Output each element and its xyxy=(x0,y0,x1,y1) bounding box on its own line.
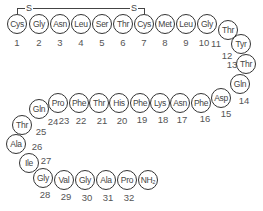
residue-14: Gln xyxy=(230,74,250,94)
residue-number: 14 xyxy=(239,95,250,106)
residue-9: Leu xyxy=(176,14,196,34)
residue-number: 22 xyxy=(76,115,87,126)
residue-number: 19 xyxy=(137,114,148,125)
residue-number: 9 xyxy=(183,37,188,48)
residue-26: Ala xyxy=(6,134,26,154)
residue-1: Cys xyxy=(7,14,27,34)
residue-2: Gly xyxy=(29,14,49,34)
residue-22: Phe xyxy=(69,93,89,113)
residue-number: 6 xyxy=(120,37,125,48)
residue-number: 15 xyxy=(221,108,232,119)
residue-17: Asn xyxy=(170,93,190,113)
residue-15: Asp xyxy=(211,88,231,108)
residue-number: 23 xyxy=(59,115,70,126)
residue-6: Thr xyxy=(113,14,133,34)
residue-13: Thr xyxy=(236,54,256,74)
residue-number: 24 xyxy=(48,116,59,127)
residue-7: Cys xyxy=(134,14,154,34)
residue-number: 16 xyxy=(200,113,211,124)
residue-25: Thr xyxy=(12,115,32,135)
residue-21: Thr xyxy=(89,93,109,113)
residue-number: 1 xyxy=(14,37,19,48)
residue-number: 3 xyxy=(57,37,62,48)
residue-number: 21 xyxy=(97,115,108,126)
residue-5: Ser xyxy=(92,14,112,34)
sulfur-label-right: S xyxy=(130,3,138,13)
residue-number: 26 xyxy=(32,141,43,152)
residue-number: 11 xyxy=(211,38,221,49)
residue-number: 4 xyxy=(78,37,83,48)
residue-number: 31 xyxy=(103,192,114,203)
residue-number: 32 xyxy=(124,192,135,203)
residue-32: Pro xyxy=(117,170,137,190)
residue-10: Gly xyxy=(197,14,217,34)
residue-number: 29 xyxy=(61,191,72,202)
residue-number: 7 xyxy=(141,37,146,48)
residue-number: 20 xyxy=(117,115,128,126)
residue-number: 25 xyxy=(36,126,47,137)
residue-31: Ala xyxy=(96,170,116,190)
residue-number: 5 xyxy=(99,37,104,48)
residue-3: Asn xyxy=(50,14,70,34)
residue-8: Met xyxy=(155,14,175,34)
disulfide-bridge-line xyxy=(17,8,145,9)
residue-23: Pro xyxy=(48,93,68,113)
residue-18: Lys xyxy=(150,93,170,113)
residue-4: Leu xyxy=(71,14,91,34)
residue-number: 13 xyxy=(227,59,238,70)
residue-number: 27 xyxy=(41,155,52,166)
residue-number: 2 xyxy=(36,37,41,48)
residue-number: 8 xyxy=(162,37,167,48)
sulfur-label-left: S xyxy=(25,3,33,13)
residue-number: 10 xyxy=(199,37,210,48)
residue-number: 17 xyxy=(177,114,188,125)
residue-28: Gly xyxy=(33,168,53,188)
residue-number: 30 xyxy=(82,192,93,203)
residue-number: 18 xyxy=(158,114,169,125)
residue-24: Gln xyxy=(29,99,49,119)
residue-number: 28 xyxy=(40,189,51,200)
residue-16: Phe xyxy=(191,93,211,113)
peptide-sequence-diagram: S S Cys1Gly2Asn3Leu4Ser5Thr6Cys7Met8Leu9… xyxy=(0,0,263,211)
residue-30: Gly xyxy=(75,170,95,190)
residue-29: Val xyxy=(54,170,74,190)
residue-20: His xyxy=(109,93,129,113)
residue-19: Phe xyxy=(130,93,150,113)
residue-nh2: NH₂ xyxy=(138,170,158,190)
residue-12: Tyr xyxy=(231,34,251,54)
